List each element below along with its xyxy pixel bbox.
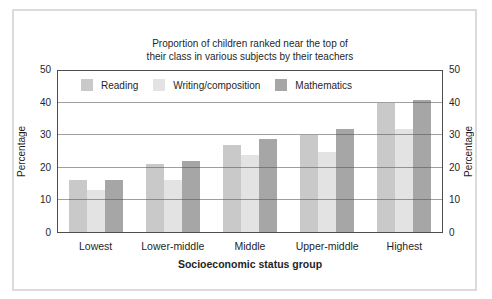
- bar-group-lowest: [58, 71, 135, 232]
- xtick-label: Lowest: [57, 240, 134, 252]
- ytick-label: 30: [449, 129, 460, 141]
- ytick-label: 10: [449, 194, 460, 206]
- ytick-label: 50: [449, 64, 460, 76]
- ytick-label: 20: [40, 162, 51, 174]
- ytick-label: 10: [40, 194, 51, 206]
- legend-swatch: [81, 79, 93, 91]
- xtick-label: Highest: [366, 240, 443, 252]
- gridline: [58, 102, 442, 103]
- bar-writing-composition: [318, 152, 336, 233]
- chart-title-line2: their class in various subjects by their…: [57, 51, 443, 64]
- ytick-label: 20: [449, 162, 460, 174]
- ytick-label: 0: [45, 227, 51, 239]
- bar-mathematics: [182, 161, 200, 232]
- ytick-label: 40: [40, 97, 51, 109]
- gridline: [58, 134, 442, 135]
- xtick-label: Middle: [211, 240, 288, 252]
- plot-area: [57, 70, 443, 233]
- xtick-label: Lower-middle: [134, 240, 211, 252]
- bar-writing-composition: [164, 180, 182, 232]
- bar-groups: [58, 71, 442, 232]
- xtick-labels: LowestLower-middleMiddleUpper-middleHigh…: [57, 240, 443, 252]
- chart-title-line1: Proportion of children ranked near the t…: [57, 38, 443, 51]
- ytick-label: 50: [40, 64, 51, 76]
- bar-group-lower-middle: [135, 71, 212, 232]
- bar-mathematics: [105, 180, 123, 232]
- legend-label: Mathematics: [295, 80, 352, 91]
- legend-swatch: [153, 79, 165, 91]
- gridline: [58, 167, 442, 168]
- ytick-label: 40: [449, 97, 460, 109]
- legend: ReadingWriting/compositionMathematics: [81, 79, 352, 91]
- bar-writing-composition: [395, 129, 413, 232]
- x-axis-title: Socioeconomic status group: [57, 258, 443, 270]
- ytick-labels-left: 01020304050: [27, 70, 51, 233]
- y-axis-label-left: Percentage: [14, 70, 28, 233]
- bar-mathematics: [259, 139, 277, 232]
- bar-group-highest: [365, 71, 442, 232]
- legend-label: Writing/composition: [173, 80, 260, 91]
- legend-item-writing-composition: Writing/composition: [153, 79, 260, 91]
- ytick-label: 30: [40, 129, 51, 141]
- chart-title: Proportion of children ranked near the t…: [57, 38, 443, 63]
- legend-swatch: [275, 79, 287, 91]
- ytick-labels-right: 01020304050: [449, 70, 473, 233]
- xtick-label: Upper-middle: [289, 240, 366, 252]
- bar-reading: [223, 145, 241, 232]
- legend-label: Reading: [101, 80, 138, 91]
- ytick-label: 0: [449, 227, 455, 239]
- bar-writing-composition: [87, 190, 105, 232]
- bar-reading: [300, 135, 318, 232]
- gridline: [58, 199, 442, 200]
- bar-reading: [69, 180, 87, 232]
- bar-group-middle: [212, 71, 289, 232]
- legend-item-mathematics: Mathematics: [275, 79, 352, 91]
- bar-mathematics: [336, 129, 354, 232]
- legend-item-reading: Reading: [81, 79, 138, 91]
- bar-group-upper-middle: [288, 71, 365, 232]
